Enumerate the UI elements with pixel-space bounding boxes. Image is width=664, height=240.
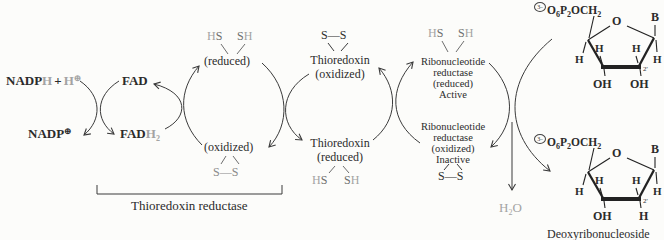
trxreductase-reduced-thiol-bond-right	[237, 44, 245, 54]
nadph-h: H	[42, 73, 52, 88]
trxreductase-reduced-sh: SH	[237, 30, 252, 43]
nadph-charge-icon: ⊕	[74, 73, 82, 83]
ribose-c3-h: H	[595, 43, 604, 54]
trxreductase-disulfide: S—S	[213, 166, 238, 179]
ribose-c1-h: H	[653, 54, 662, 65]
ribose-2prime-label: 2'	[643, 66, 648, 73]
ribose-c1-c2-bond	[639, 38, 654, 66]
rnr-active-thiol-bond-right	[456, 41, 464, 52]
ribose-base-b: B	[651, 11, 659, 23]
arrow-nadph-to-nadp	[80, 81, 97, 135]
water-h: H	[499, 200, 508, 215]
rnr-name-line1: Ribonucleotide	[418, 121, 488, 132]
formula-p: P	[560, 4, 567, 16]
deoxyribose-c2-h: H	[632, 175, 641, 186]
deoxyribose-c1-c2-bond	[639, 170, 654, 198]
deoxyribose-c4-h-bond	[583, 174, 586, 185]
thioredoxin-reduced-thiol-bond-right	[343, 166, 349, 173]
ribose-c2-oh-bond	[640, 69, 641, 76]
ribose-o-c1-bond	[627, 26, 654, 38]
ribose-c2-h: H	[632, 43, 641, 54]
thioredoxin-reduced-state: (reduced)	[308, 151, 372, 165]
fad-base: FAD	[122, 73, 148, 88]
thioredoxin-oxidized-label: Thioredoxin (oxidized)	[308, 54, 372, 81]
fadh2-h: H	[146, 126, 156, 141]
thioredoxin-oxidized-bond-left	[328, 43, 334, 51]
thioredoxin-pathway-diagram: NADPH+H⊕ FAD NADP⊕ FADH2 HS SH (reduced)…	[0, 0, 664, 240]
thioredoxin-reduced-sh: SH	[344, 174, 359, 187]
deoxyribose-o-c1-bond	[627, 158, 654, 170]
s-atom: S	[216, 29, 223, 43]
thioredoxin-reduced-label: Thioredoxin (reduced)	[308, 137, 372, 164]
charge-3minus-icon: 3−	[534, 134, 546, 144]
ribose-phosphate-bond	[589, 16, 594, 38]
ribose-c4-h-bond	[583, 42, 586, 53]
formula-o: O	[547, 4, 556, 16]
deoxyribose-base-b: B	[651, 143, 659, 155]
rnr-name-line2: reductase	[418, 132, 488, 143]
nadph-base: NADP	[6, 73, 42, 88]
rnr-name-line1: Ribonucleotide	[418, 56, 488, 67]
deoxyribose-phosphate-bond	[589, 148, 594, 170]
h-atom: H	[428, 26, 437, 40]
charge-3minus-icon: 3−	[534, 2, 546, 12]
thioredoxin-name: Thioredoxin	[308, 137, 372, 151]
nadp-label: NADP⊕	[28, 127, 72, 141]
formula-och: OCH	[571, 136, 597, 148]
ribose-c2-h-bond	[636, 56, 638, 63]
thioredoxin-reductase-bracket	[97, 185, 282, 194]
ribose-c4-h: H	[575, 54, 584, 65]
s-atom: S	[237, 29, 244, 43]
rnr-reduced-state: (reduced)	[418, 78, 488, 89]
h-atom: H	[312, 173, 321, 187]
rnr-inactive-state: Inactive	[418, 154, 488, 165]
trxreductase-oxidized-bond-left	[221, 156, 226, 164]
nadp-charge-icon: ⊕	[64, 126, 72, 136]
h-atom: H	[465, 26, 474, 40]
fad-label: FAD	[122, 74, 148, 88]
ribose-phosphate-formula: 3−O6P2OCH2	[534, 2, 601, 19]
nadph-plus: +	[54, 73, 61, 88]
water-label: H2O	[499, 201, 522, 217]
ribose-c2-oh: OH	[630, 78, 649, 90]
thioredoxin-oxidized-bond-right	[341, 43, 348, 51]
deoxyribose-c1-h-bond	[656, 172, 657, 184]
rnr-name-line2: reductase	[418, 67, 488, 78]
fadh2-base: FAD	[120, 126, 146, 141]
trxreductase-reduced-hs: HS	[207, 30, 222, 43]
arrow-fad-to-fadh2	[100, 81, 119, 134]
trxreductase-reduced-label: (reduced)	[204, 55, 250, 68]
arrow-thioredoxin-oxidized-to-reduced	[286, 74, 309, 140]
h-atom: H	[207, 29, 216, 43]
thioredoxin-reductase-bracket-label: Thioredoxin reductase	[131, 199, 248, 213]
ribose-c3-oh: OH	[593, 78, 612, 90]
arrow-trxreductase-oxidized-to-reduced	[184, 66, 202, 145]
thioredoxin-name: Thioredoxin	[308, 54, 372, 68]
formula-och-sub: 2	[597, 142, 601, 151]
thioredoxin-oxidized-state: (oxidized)	[308, 68, 372, 82]
deoxyribose-c3-oh-bond	[604, 201, 605, 208]
deoxyribose-c3-h: H	[595, 175, 604, 186]
thioredoxin-reduced-hs: HS	[312, 174, 327, 187]
rnr-inactive-label: Ribonucleotide reductase (oxidized) Inac…	[418, 121, 488, 165]
nadph-label: NADPH+H⊕	[6, 74, 82, 88]
s-atom: S	[458, 26, 465, 40]
h-atom: H	[351, 173, 360, 187]
fadh2-subscript: 2	[156, 134, 160, 143]
deoxyribose-c3-oh: OH	[593, 210, 612, 222]
fadh2-label: FADH2	[120, 127, 160, 143]
s-atom: S	[321, 173, 328, 187]
rnr-active-hs: HS	[428, 27, 443, 40]
ribose-ring-o: O	[612, 15, 621, 27]
rnr-active-sh: SH	[458, 27, 473, 40]
arrow-ribonucleotide-to-deoxyribonucleotide	[515, 39, 552, 171]
deoxyribonucleoside-caption: Deoxyribonucleoside	[547, 228, 650, 240]
deoxyribose-c2-h-bond	[636, 188, 638, 195]
thioredoxin-oxidized-disulfide: S—S	[321, 29, 346, 42]
trxreductase-oxidized-bond-right	[233, 156, 239, 164]
rnr-oxidized-state: (oxidized)	[418, 143, 488, 154]
deoxyribose-c1-h: H	[653, 186, 662, 197]
rnr-inactive-disulfide: S—S	[438, 170, 463, 183]
deoxyribose-c4-h: H	[575, 186, 584, 197]
deoxyribose-ring-o: O	[612, 147, 621, 159]
